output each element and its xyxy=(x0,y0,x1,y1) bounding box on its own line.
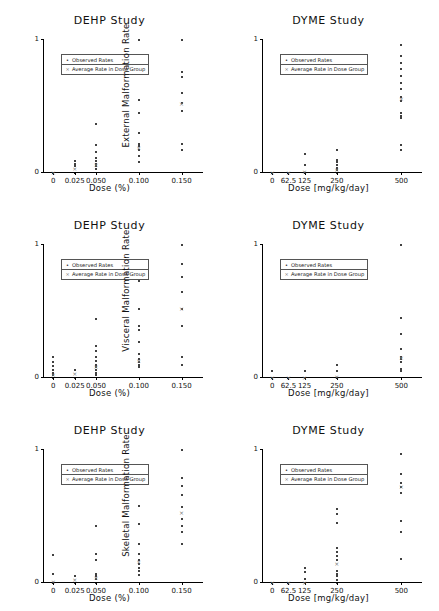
average-rate-marker: × xyxy=(136,145,141,151)
observed-rate-point xyxy=(138,99,140,101)
average-rate-marker: × xyxy=(334,561,339,567)
chart-legend: Observed RatesAverage Rate in Dose Group xyxy=(61,464,149,485)
x-tick-label: 250 xyxy=(330,178,343,185)
dot-marker-icon xyxy=(65,57,70,64)
x-tick-mark xyxy=(139,582,140,585)
legend-row-average: Average Rate in Dose Group xyxy=(62,269,148,278)
observed-rate-point xyxy=(271,370,273,372)
average-rate-marker: × xyxy=(270,375,275,381)
observed-rate-point xyxy=(138,505,140,507)
average-rate-marker: × xyxy=(286,375,291,381)
legend-row-average: Average Rate in Dose Group xyxy=(281,474,367,483)
x-tick-mark xyxy=(139,172,140,175)
observed-rate-point xyxy=(400,368,402,370)
y-axis-title: External Malformation Rate xyxy=(121,19,133,152)
average-rate-marker: × xyxy=(51,579,56,585)
y-tick-mark xyxy=(260,582,263,583)
observed-rate-point xyxy=(181,494,183,496)
x-tick-label: 0.025 xyxy=(65,383,85,390)
observed-rate-point xyxy=(400,370,402,372)
observed-rate-point xyxy=(336,570,338,572)
legend-label-average: Average Rate in Dose Group xyxy=(291,271,364,278)
observed-rate-point xyxy=(336,575,338,577)
observed-rate-point xyxy=(138,364,140,366)
observed-rate-point xyxy=(52,365,54,367)
y-tick-label: 1 xyxy=(35,446,39,453)
x-tick-mark xyxy=(182,377,183,380)
cross-marker-icon xyxy=(65,476,70,483)
legend-label-observed: Observed Rates xyxy=(72,57,113,64)
chart-title: DYME Study xyxy=(219,219,438,232)
x-tick-label: 125 xyxy=(298,383,311,390)
average-rate-marker: × xyxy=(51,372,56,378)
observed-rate-point xyxy=(400,115,402,117)
legend-row-observed: Observed Rates xyxy=(62,466,148,474)
x-tick-label: 0.050 xyxy=(86,178,106,185)
average-rate-marker: × xyxy=(179,510,184,516)
observed-rate-point xyxy=(336,364,338,366)
chart-legend: Observed RatesAverage Rate in Dose Group xyxy=(280,54,368,75)
average-rate-marker: × xyxy=(270,580,275,586)
observed-rate-point xyxy=(336,573,338,575)
x-tick-label: 62.5 xyxy=(281,588,297,595)
observed-rate-point xyxy=(336,513,338,515)
x-tick-label: 0.025 xyxy=(65,178,85,185)
legend-label-observed: Observed Rates xyxy=(291,262,332,269)
observed-rate-point xyxy=(138,570,140,572)
x-tick-label: 125 xyxy=(298,178,311,185)
observed-rate-point xyxy=(304,567,306,569)
observed-rate-point xyxy=(95,345,97,347)
legend-label-observed: Observed Rates xyxy=(291,467,332,474)
x-tick-label: 500 xyxy=(395,383,408,390)
observed-rate-point xyxy=(95,525,97,527)
observed-rate-point xyxy=(138,523,140,525)
y-axis-line xyxy=(262,450,263,583)
average-rate-marker: × xyxy=(302,375,307,381)
x-tick-mark xyxy=(182,582,183,585)
legend-label-average: Average Rate in Dose Group xyxy=(291,476,364,483)
x-tick-label: 250 xyxy=(330,588,343,595)
chart-legend: Observed RatesAverage Rate in Dose Group xyxy=(280,259,368,280)
y-tick-label: 0 xyxy=(35,374,39,381)
observed-rate-point xyxy=(400,333,402,335)
plot-area: 01062.5125250500×××××Observed RatesAvera… xyxy=(262,450,422,583)
average-rate-marker: × xyxy=(399,484,404,490)
chart-legend: Observed RatesAverage Rate in Dose Group xyxy=(61,54,149,75)
observed-rate-point xyxy=(181,449,183,451)
legend-row-average: Average Rate in Dose Group xyxy=(281,269,367,278)
y-axis-line xyxy=(262,40,263,173)
x-tick-label: 0.100 xyxy=(129,588,149,595)
observed-rate-point xyxy=(181,525,183,527)
observed-rate-point xyxy=(304,164,306,166)
observed-rate-point xyxy=(95,360,97,362)
x-tick-label: 62.5 xyxy=(281,178,297,185)
observed-rate-point xyxy=(400,112,402,114)
average-rate-marker: × xyxy=(72,371,77,377)
dot-marker-icon xyxy=(284,262,289,269)
observed-rate-point xyxy=(138,329,140,331)
y-axis-line xyxy=(43,245,44,378)
observed-rate-point xyxy=(95,350,97,352)
legend-row-observed: Observed Rates xyxy=(281,261,367,269)
x-tick-label: 0.050 xyxy=(86,383,106,390)
average-rate-marker: × xyxy=(286,580,291,586)
y-tick-mark xyxy=(41,244,44,245)
observed-rate-point xyxy=(400,244,402,246)
observed-rate-point xyxy=(400,44,402,46)
observed-rate-point xyxy=(400,361,402,363)
legend-label-average: Average Rate in Dose Group xyxy=(72,66,145,73)
legend-label-observed: Observed Rates xyxy=(72,262,113,269)
observed-rate-point xyxy=(400,492,402,494)
observed-rate-point xyxy=(74,377,76,379)
y-axis-line xyxy=(262,245,263,378)
average-rate-marker: × xyxy=(286,170,291,176)
y-tick-label: 1 xyxy=(254,241,258,248)
chart-legend: Observed RatesAverage Rate in Dose Group xyxy=(61,259,149,280)
y-tick-mark xyxy=(41,172,44,173)
chart-title: DEHP Study xyxy=(0,424,219,437)
y-axis-title: Visceral Malformation Rate xyxy=(121,224,133,357)
legend-row-observed: Observed Rates xyxy=(281,466,367,474)
x-axis-line xyxy=(43,377,203,378)
x-tick-label: 0.150 xyxy=(172,588,192,595)
observed-rate-point xyxy=(138,112,140,114)
